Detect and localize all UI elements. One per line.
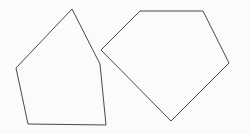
pentagon-figure-svg bbox=[0, 0, 251, 134]
figure-background bbox=[0, 0, 251, 134]
pentagon-figure-canvas: Two overlapping pentagons Line drawing o… bbox=[0, 0, 251, 134]
